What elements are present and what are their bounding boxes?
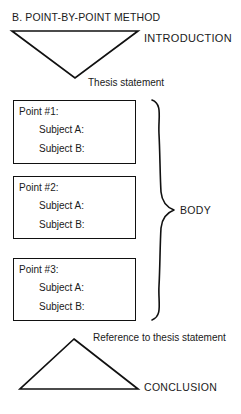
body-brace <box>152 100 174 320</box>
diagram-canvas: B. POINT-BY-POINT METHOD INTRODUCTION Th… <box>0 0 241 414</box>
reference-to-thesis-label: Reference to thesis statement <box>93 333 226 343</box>
conclusion-triangle <box>20 339 138 389</box>
point-box-3: Point #3: Subject A: Subject B: <box>13 258 136 321</box>
point-title: Point #1: <box>19 106 58 117</box>
point-title: Point #3: <box>19 264 58 275</box>
conclusion-label: CONCLUSION <box>144 382 217 393</box>
subject-a-label: Subject A: <box>39 282 84 293</box>
body-label: BODY <box>180 205 211 216</box>
subject-b-label: Subject B: <box>39 301 85 312</box>
page-title: B. POINT-BY-POINT METHOD <box>12 12 160 23</box>
point-title: Point #2: <box>19 182 58 193</box>
thesis-statement-label: Thesis statement <box>88 78 164 88</box>
introduction-label: INTRODUCTION <box>144 33 232 44</box>
subject-a-label: Subject A: <box>39 124 84 135</box>
point-box-1: Point #1: Subject A: Subject B: <box>13 100 136 164</box>
introduction-triangle <box>12 31 138 78</box>
subject-a-label: Subject A: <box>39 200 84 211</box>
subject-b-label: Subject B: <box>39 219 85 230</box>
subject-b-label: Subject B: <box>39 143 85 154</box>
point-box-2: Point #2: Subject A: Subject B: <box>13 176 136 239</box>
